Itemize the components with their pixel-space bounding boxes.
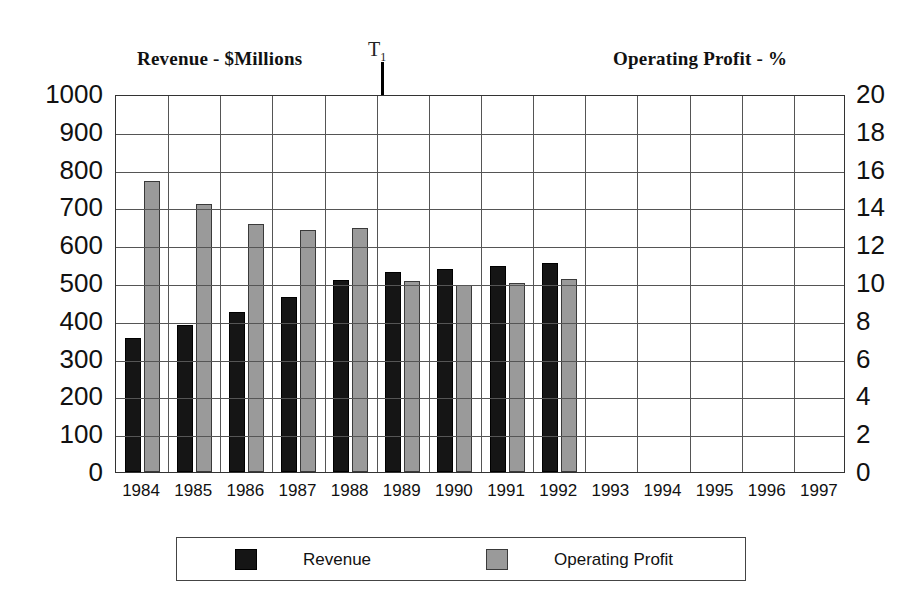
gridline-vertical [585, 96, 586, 472]
right-axis-tick-2: 2 [856, 421, 916, 447]
left-axis-tick-0: 0 [8, 459, 103, 485]
gridline-horizontal [116, 436, 844, 437]
bar-operating-profit-1984 [144, 181, 160, 472]
right-axis-tick-6: 6 [856, 346, 916, 372]
left-axis-tick-1000: 1000 [8, 81, 103, 107]
gridline-horizontal [116, 247, 844, 248]
plot-area [115, 95, 845, 473]
gridline-vertical [220, 96, 221, 472]
gridline-horizontal [116, 323, 844, 324]
x-axis-tick-1988: 1988 [322, 481, 378, 501]
bar-operating-profit-1992 [561, 279, 577, 472]
gridline-vertical [742, 96, 743, 472]
bar-operating-profit-1991 [509, 283, 525, 472]
gridline-vertical [325, 96, 326, 472]
x-axis-tick-1996: 1996 [739, 481, 795, 501]
bar-operating-profit-1985 [196, 204, 212, 472]
right-axis-tick-10: 10 [856, 270, 916, 296]
bar-revenue-1990 [437, 269, 453, 472]
bar-revenue-1992 [542, 263, 558, 472]
legend-label-revenue: Revenue [303, 550, 371, 570]
left-axis-title: Revenue - $Millions [137, 48, 302, 70]
x-axis-tick-1986: 1986 [217, 481, 273, 501]
right-axis-tick-20: 20 [856, 81, 916, 107]
gridline-horizontal [116, 285, 844, 286]
gridline-vertical [794, 96, 795, 472]
legend-swatch-operating-profit [486, 549, 508, 570]
right-axis-title: Operating Profit - % [613, 48, 787, 70]
left-axis-tick-100: 100 [8, 421, 103, 447]
bar-operating-profit-1986 [248, 224, 264, 472]
legend-item-revenue: Revenue [235, 549, 371, 570]
legend-swatch-revenue [235, 549, 257, 570]
legend-item-operating-profit: Operating Profit [486, 549, 673, 570]
x-axis-tick-1990: 1990 [426, 481, 482, 501]
left-axis-tick-400: 400 [8, 308, 103, 334]
x-axis-tick-1993: 1993 [582, 481, 638, 501]
x-axis-tick-1995: 1995 [687, 481, 743, 501]
left-axis-tick-500: 500 [8, 270, 103, 296]
left-axis-tick-600: 600 [8, 232, 103, 258]
bar-layer [116, 96, 844, 472]
right-axis-tick-4: 4 [856, 383, 916, 409]
bar-revenue-1986 [229, 312, 245, 472]
t1-annotation-label: T1 [368, 38, 386, 65]
left-axis-tick-900: 900 [8, 119, 103, 145]
left-axis-tick-800: 800 [8, 157, 103, 183]
bar-revenue-1988 [333, 280, 349, 472]
gridline-vertical [690, 96, 691, 472]
gridline-vertical [168, 96, 169, 472]
bar-revenue-1991 [490, 266, 506, 472]
right-axis-tick-8: 8 [856, 308, 916, 334]
x-axis-tick-1994: 1994 [635, 481, 691, 501]
chart-figure: Revenue - $Millions Operating Profit - %… [0, 0, 919, 591]
right-axis-tick-12: 12 [856, 232, 916, 258]
gridline-horizontal [116, 361, 844, 362]
left-axis-tick-200: 200 [8, 383, 103, 409]
gridline-vertical [377, 96, 378, 472]
x-axis-tick-1984: 1984 [113, 481, 169, 501]
right-axis-tick-0: 0 [856, 459, 916, 485]
gridline-horizontal [116, 398, 844, 399]
gridline-horizontal [116, 172, 844, 173]
x-axis-tick-1987: 1987 [270, 481, 326, 501]
t1-letter: T [368, 38, 380, 60]
right-axis-tick-14: 14 [856, 194, 916, 220]
gridline-vertical [429, 96, 430, 472]
left-axis-tick-300: 300 [8, 346, 103, 372]
gridline-horizontal [116, 209, 844, 210]
bar-revenue-1984 [125, 338, 141, 472]
left-axis-tick-700: 700 [8, 194, 103, 220]
gridline-vertical [272, 96, 273, 472]
x-axis-tick-1992: 1992 [530, 481, 586, 501]
x-axis-tick-1985: 1985 [165, 481, 221, 501]
right-axis-tick-16: 16 [856, 157, 916, 183]
x-axis-tick-1997: 1997 [791, 481, 847, 501]
bar-revenue-1989 [385, 272, 401, 472]
right-axis-tick-18: 18 [856, 119, 916, 145]
x-axis-tick-1991: 1991 [478, 481, 534, 501]
gridline-horizontal [116, 134, 844, 135]
gridline-vertical [481, 96, 482, 472]
gridline-vertical [637, 96, 638, 472]
gridline-vertical [533, 96, 534, 472]
x-axis-tick-1989: 1989 [374, 481, 430, 501]
legend-label-operating-profit: Operating Profit [554, 550, 673, 570]
bar-operating-profit-1990 [456, 285, 472, 472]
chart-legend: Revenue Operating Profit [176, 537, 746, 581]
bar-operating-profit-1989 [404, 281, 420, 472]
